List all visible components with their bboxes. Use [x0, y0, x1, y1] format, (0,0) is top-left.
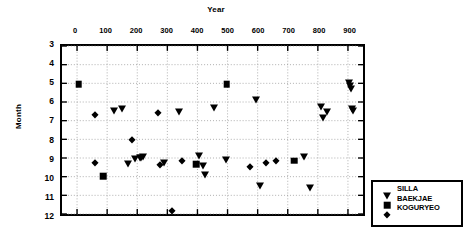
marker-triangle-icon [110, 107, 118, 114]
marker-square-icon [223, 81, 230, 88]
y-tick-label: 6 [34, 96, 54, 106]
marker-triangle-icon [300, 153, 308, 160]
y-tick-label: 3 [34, 39, 54, 49]
y-tick-label: 8 [34, 135, 54, 145]
legend-label-baekjae: BAEKJAE [397, 194, 440, 204]
marker-diamond-icon [168, 208, 175, 215]
marker-diamond-icon [383, 211, 390, 218]
y-tick-label: 7 [34, 115, 54, 125]
legend-label-silla: SILLA [397, 184, 440, 194]
marker-square-icon [193, 161, 200, 168]
plot-area [60, 44, 365, 216]
y-tick-label: 4 [34, 58, 54, 68]
marker-triangle-icon [210, 105, 218, 112]
data-points-layer [62, 46, 363, 214]
marker-triangle-icon [139, 153, 147, 160]
legend-marker-column [379, 191, 395, 220]
y-tick-label: 11 [34, 192, 54, 202]
marker-triangle-icon [323, 108, 331, 115]
y-tick-label: 5 [34, 77, 54, 87]
marker-triangle-icon [175, 108, 183, 115]
marker-square-icon [291, 157, 298, 164]
y-axis-label: Month [14, 92, 23, 142]
marker-triangle-icon [383, 192, 391, 199]
legend-marker-slot [379, 201, 395, 211]
y-tick-label: 10 [34, 173, 54, 183]
chart-title: Year [186, 5, 246, 14]
legend-marker-slot [379, 210, 395, 220]
marker-diamond-icon [246, 164, 253, 171]
marker-square-icon [100, 173, 107, 180]
chart-legend: SILLABAEKJAEKOGURYEO [371, 180, 463, 227]
marker-diamond-icon [272, 157, 279, 164]
marker-diamond-icon [263, 159, 270, 166]
marker-triangle-icon [252, 97, 260, 104]
marker-triangle-icon [199, 163, 207, 170]
scatter-chart-figure: Year Month 0100200300400500600700800900 … [0, 0, 470, 244]
y-tick-label: 12 [34, 211, 54, 221]
marker-diamond-icon [179, 157, 186, 164]
marker-triangle-icon [256, 182, 264, 189]
marker-square-icon [384, 202, 391, 209]
marker-triangle-icon [195, 152, 203, 159]
marker-diamond-icon [91, 111, 98, 118]
legend-label-koguryeo: KOGURYEO [397, 203, 440, 213]
marker-triangle-icon [118, 106, 126, 113]
marker-triangle-icon [349, 107, 357, 114]
y-tick-label: 9 [34, 154, 54, 164]
marker-triangle-icon [201, 172, 209, 179]
marker-triangle-icon [347, 86, 355, 93]
marker-triangle-icon [306, 185, 314, 192]
marker-diamond-icon [154, 109, 161, 116]
marker-square-icon [75, 81, 82, 88]
marker-diamond-icon [128, 136, 135, 143]
marker-diamond-icon [91, 159, 98, 166]
legend-marker-slot [379, 191, 395, 201]
x-tick-label: 900 [330, 26, 370, 35]
marker-triangle-icon [222, 156, 230, 163]
legend-label-column: SILLABAEKJAEKOGURYEO [397, 184, 440, 213]
